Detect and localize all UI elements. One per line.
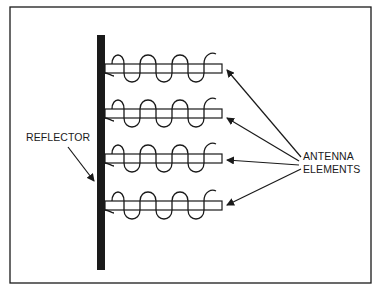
reflector-plate <box>97 35 105 270</box>
antenna-elements-label-line2: ELEMENTS <box>303 163 360 176</box>
reflector-label: REFLECTOR <box>26 131 90 144</box>
antenna-element-2 <box>105 98 222 127</box>
antenna-element-4 <box>105 190 222 219</box>
antenna-diagram <box>0 0 385 298</box>
antenna-elements-label-line1: ANTENNA <box>303 150 354 163</box>
reflector-leader <box>68 147 94 181</box>
antenna-element-3 <box>105 143 222 172</box>
antenna-elements-leaders <box>227 70 301 205</box>
antenna-element-1 <box>105 53 222 82</box>
diagram-frame <box>10 7 371 283</box>
